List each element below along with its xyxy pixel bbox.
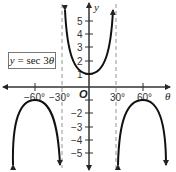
y-tick-2: 2	[77, 56, 83, 67]
x-tick-neg30: −30°	[49, 92, 70, 103]
x-axis-label: θ	[165, 90, 171, 102]
y-tick-neg3: −3	[71, 122, 83, 133]
curve-left-branch	[13, 100, 60, 165]
x-tick-pos30: 30°	[110, 92, 125, 103]
y-tick-neg2: −2	[71, 108, 83, 119]
curve-right-branch	[118, 100, 166, 165]
origin-label: O	[79, 88, 88, 100]
y-tick-neg5: −5	[71, 148, 83, 159]
y-tick-5: 5	[77, 16, 83, 27]
equation-theta: θ	[49, 54, 54, 66]
y-tick-neg4: −4	[71, 135, 83, 146]
equation-body: = sec 3	[15, 54, 49, 66]
y-tick-3: 3	[77, 42, 83, 53]
equation-label: y = sec 3θ	[8, 52, 56, 69]
sec-graph: 5 4 3 2 1 −2 −3 −4 −5 −60° −30° 30° 60° …	[0, 0, 176, 172]
y-axis-label: y	[93, 1, 99, 13]
y-tick-4: 4	[77, 29, 83, 40]
